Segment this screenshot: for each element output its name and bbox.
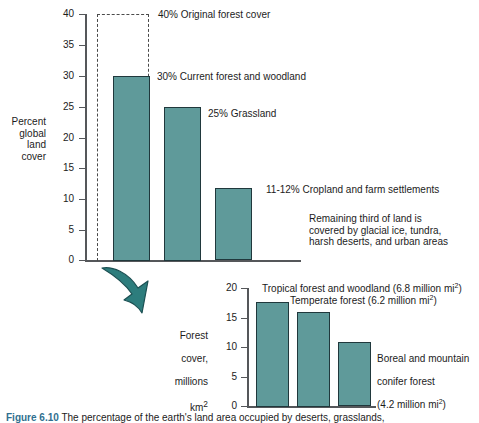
main-tick-40: [79, 14, 85, 15]
inset-axis-title-line-1: Forest: [158, 330, 208, 342]
callout-boreal-line-2: conifer forest: [377, 376, 469, 388]
main-tick-label-25: 25: [48, 102, 74, 112]
main-y-axis-title: Percent global land cover: [0, 116, 46, 162]
bar-tropical-forest: [256, 302, 289, 407]
callout-boreal-line-1: Boreal and mountain: [377, 353, 469, 365]
figure-caption: Figure 6.10 The percentage of the earth'…: [6, 412, 476, 423]
main-tick-label-30: 30: [48, 71, 74, 81]
inset-axis-title-line-3: millions: [158, 376, 208, 388]
callout-current-forest: 30% Current forest and woodland: [157, 71, 306, 83]
inset-tick-label-5: 5: [211, 372, 237, 382]
main-tick-label-20: 20: [48, 133, 74, 143]
bar-temperate-forest: [297, 312, 330, 407]
main-tick-5: [79, 230, 85, 231]
figure-land-cover: 40 35 30 25 20 15 10 5 0 Percent global …: [0, 0, 479, 423]
callout-boreal-close: ): [443, 399, 446, 410]
inset-y-axis-title: Forest cover, millions km2: [158, 318, 208, 423]
main-tick-label-15: 15: [48, 163, 74, 173]
callout-tropical-text: Tropical forest and woodland (6.8 millio…: [262, 283, 455, 294]
inset-tick-15: [241, 318, 247, 319]
main-tick-25: [79, 107, 85, 108]
figure-caption-text: The percentage of the earth's land area …: [61, 412, 384, 423]
callout-temperate-close: ): [433, 295, 436, 306]
main-tick-label-40: 40: [48, 9, 74, 19]
inset-axis-title-line-2: cover,: [158, 353, 208, 365]
figure-number: Figure 6.10: [6, 412, 59, 423]
callout-grassland: 25% Grassland: [208, 108, 276, 120]
main-tick-label-10: 10: [48, 194, 74, 204]
inset-tick-5: [241, 377, 247, 378]
callout-original-forest: 40% Original forest cover: [158, 9, 270, 21]
main-tick-30: [79, 76, 85, 77]
callout-tropical-close: ): [458, 283, 461, 294]
inset-tick-label-0: 0: [211, 401, 237, 411]
main-y-axis: [85, 14, 87, 261]
bar-grassland: [164, 107, 201, 261]
inset-y-axis: [247, 288, 249, 407]
inset-axis-title-superscript: 2: [203, 399, 208, 409]
inset-tick-label-20: 20: [211, 283, 237, 293]
bar-boreal-forest: [338, 342, 371, 406]
callout-boreal-forest: Boreal and mountain conifer forest (4.2 …: [377, 341, 469, 422]
main-tick-label-0: 0: [48, 255, 74, 265]
callout-remaining-land: Remaining third of land is covered by gl…: [309, 213, 448, 248]
main-tick-label-35: 35: [48, 40, 74, 50]
callout-temperate-text: Temperate forest (6.2 million mi: [290, 295, 430, 306]
main-tick-label-5: 5: [48, 225, 74, 235]
main-tick-35: [79, 45, 85, 46]
callout-cropland: 11-12% Cropland and farm settlements: [266, 184, 439, 196]
inset-tick-20: [241, 288, 247, 289]
inset-tick-10: [241, 347, 247, 348]
main-tick-0: [79, 260, 85, 261]
main-tick-15: [79, 168, 85, 169]
bar-current-forest: [113, 76, 150, 261]
down-arrow-icon: [98, 266, 158, 326]
callout-boreal-line-3: (4.2 million mi2): [377, 399, 469, 411]
main-tick-20: [79, 138, 85, 139]
callout-boreal-text: (4.2 million mi: [377, 399, 439, 410]
inset-tick-label-10: 10: [211, 342, 237, 352]
callout-temperate-forest: Temperate forest (6.2 million mi2): [290, 295, 437, 307]
inset-tick-label-15: 15: [211, 313, 237, 323]
main-tick-10: [79, 199, 85, 200]
inset-tick-0: [241, 406, 247, 407]
bar-cropland: [215, 188, 252, 261]
